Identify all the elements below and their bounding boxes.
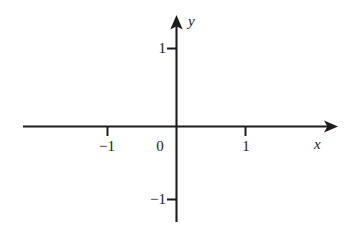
x-axis-label: x bbox=[314, 137, 321, 152]
origin-label: 0 bbox=[152, 139, 168, 154]
y-tick-label-negative-one: −1 bbox=[133, 192, 166, 207]
axes-drawing bbox=[0, 0, 351, 238]
x-tick-label-positive-one: 1 bbox=[238, 139, 254, 154]
y-axis-label: y bbox=[188, 14, 195, 29]
x-tick-label-negative-one: −1 bbox=[90, 139, 124, 154]
coordinate-plane-figure: y x 1 −1 −1 1 0 bbox=[0, 0, 351, 238]
y-tick-label-positive-one: 1 bbox=[150, 41, 166, 56]
